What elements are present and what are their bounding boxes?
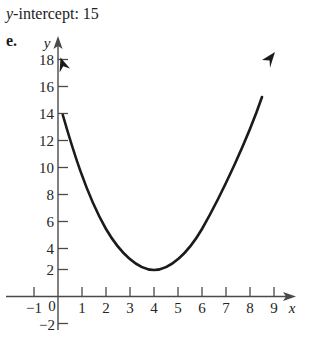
y-tick-label-2: 2 (47, 262, 55, 278)
x-axis-ticks (34, 287, 274, 297)
x-tick-labels: −1 0 1 2 3 4 5 6 7 8 9 (26, 298, 278, 316)
y-tick-label-16: 16 (39, 79, 55, 95)
y-tick-label-18: 18 (39, 52, 54, 68)
figure-container: y-intercept: 15 e. (0, 0, 320, 354)
x-tick-label-neg1: −1 (26, 300, 42, 316)
y-tick-label-8: 8 (47, 187, 55, 203)
curve-arrow-up-right-icon (262, 52, 275, 68)
x-tick-label-6: 6 (198, 300, 206, 316)
y-tick-label-14: 14 (39, 106, 55, 122)
parabola-curve (63, 97, 262, 270)
x-tick-label-3: 3 (126, 300, 134, 316)
y-tick-label-10: 10 (39, 160, 54, 176)
x-tick-label-8: 8 (246, 300, 254, 316)
y-tick-labels: 18 16 14 12 10 8 6 4 2 −2 (39, 52, 55, 333)
x-tick-label-2: 2 (102, 300, 110, 316)
y-tick-label-neg2: −2 (39, 317, 55, 333)
x-tick-label-9: 9 (270, 300, 278, 316)
y-axis-ticks (58, 60, 68, 324)
x-tick-label-0: 0 (48, 298, 56, 314)
parabola-graph: 18 16 14 12 10 8 6 4 2 −2 −1 0 1 2 3 4 5… (0, 0, 320, 354)
x-tick-label-4: 4 (150, 300, 158, 316)
x-tick-label-5: 5 (174, 300, 182, 316)
y-tick-label-12: 12 (39, 133, 54, 149)
y-tick-label-6: 6 (47, 214, 55, 230)
x-tick-label-1: 1 (78, 300, 86, 316)
x-tick-label-7: 7 (222, 300, 230, 316)
y-tick-label-4: 4 (47, 241, 55, 257)
x-axis-label: x (288, 300, 296, 316)
y-axis-label: y (42, 35, 51, 51)
